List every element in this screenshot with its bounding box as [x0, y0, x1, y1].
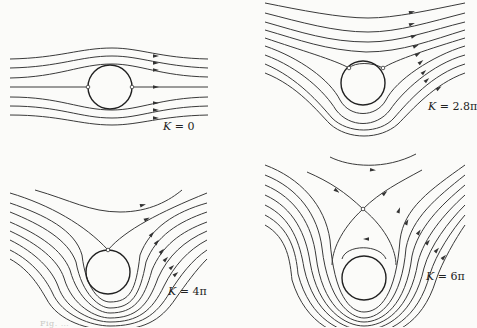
- flow-arrow-icon: [411, 33, 418, 38]
- streamline: [10, 56, 208, 68]
- stagnation-point: [106, 248, 110, 252]
- stagnation-point: [361, 207, 365, 211]
- k-value: = 2.8π: [440, 100, 477, 113]
- streamline: [10, 222, 207, 313]
- streamline: [35, 190, 182, 212]
- k-value: = 0: [175, 120, 195, 133]
- flow-arrow-icon: [370, 168, 376, 172]
- flow-arrow-icon: [140, 203, 147, 208]
- flow-arrow-icon: [396, 207, 402, 214]
- flow-arrow-icon: [153, 54, 159, 58]
- streamline: [10, 193, 207, 250]
- figure-caption: Fig. …: [40, 319, 69, 328]
- flow-arrow-icon: [418, 59, 425, 66]
- k-variable: K: [168, 285, 176, 298]
- stagnation-point: [381, 66, 385, 70]
- flow-arrow-icon: [159, 248, 166, 255]
- flow-arrow-icon: [153, 101, 159, 105]
- panel-k2_8pi: [265, 3, 465, 136]
- streamline: [265, 38, 465, 68]
- flow-arrow-icon: [424, 77, 431, 84]
- cylinder: [342, 256, 386, 300]
- k-variable: K: [163, 120, 171, 133]
- streamline: [342, 248, 386, 259]
- streamline: [265, 175, 465, 318]
- panel-k0: [10, 48, 208, 125]
- panel-k6pi: [265, 154, 465, 327]
- cylinder: [86, 250, 130, 294]
- flow-arrow-icon: [153, 85, 159, 89]
- k-variable: K: [426, 270, 434, 283]
- stagnation-point: [130, 85, 134, 89]
- streamline: [10, 48, 208, 59]
- panel-label-k2-8pi: K = 2.8π: [428, 100, 477, 113]
- flow-arrow-icon: [173, 271, 180, 278]
- flow-arrow-icon: [163, 256, 170, 263]
- flow-arrow-icon: [334, 188, 341, 194]
- streamline: [265, 30, 465, 52]
- stagnation-point: [347, 66, 351, 70]
- panel-label-k4pi: K = 4π: [168, 285, 207, 298]
- stagnation-point: [86, 85, 90, 89]
- panel-k4pi: [10, 190, 207, 327]
- streamline: [265, 13, 465, 32]
- streamline: [307, 170, 422, 209]
- streamline: [330, 154, 416, 165]
- k-variable: K: [428, 100, 436, 113]
- streamline: [265, 205, 465, 327]
- k-value: = 6π: [438, 270, 465, 283]
- flow-arrow-icon: [436, 85, 443, 91]
- streamline: [265, 3, 465, 18]
- streamline: [265, 64, 465, 130]
- flow-arrow-icon: [363, 237, 369, 241]
- panels-layer: [10, 3, 465, 327]
- k-value: = 4π: [180, 285, 207, 298]
- streamline: [10, 231, 207, 318]
- panel-label-k0: K = 0: [163, 120, 194, 133]
- cylinder: [88, 65, 132, 109]
- panel-label-k6pi: K = 6π: [426, 270, 465, 283]
